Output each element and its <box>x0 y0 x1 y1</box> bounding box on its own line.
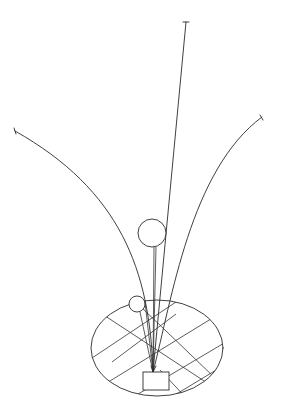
rising-strokes <box>14 22 263 372</box>
small-circle <box>129 296 145 312</box>
straight-rod <box>153 22 186 372</box>
ellipse-grid-lines <box>80 282 236 410</box>
right-arc-end-cap <box>260 115 263 120</box>
grid-ellipse <box>80 282 236 410</box>
tether-line <box>145 302 153 372</box>
diagram-canvas <box>0 0 283 416</box>
large-circle <box>138 219 166 247</box>
base-rectangle <box>143 372 169 390</box>
left-arc <box>15 131 153 372</box>
grid-line <box>118 336 236 406</box>
